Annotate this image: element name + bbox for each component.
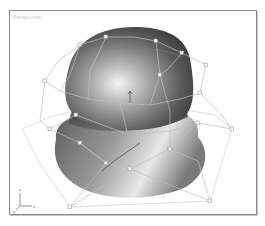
axis-label-y: y xyxy=(13,209,15,214)
axis-tripod-icon xyxy=(16,193,32,210)
axis-label-x: x xyxy=(33,204,35,209)
ffd-deformed-object[interactable]: z x y xyxy=(10,11,256,214)
surface-top xyxy=(65,27,193,130)
perspective-viewport[interactable]: Perspective xyxy=(9,10,257,215)
axis-label-z: z xyxy=(19,187,21,192)
